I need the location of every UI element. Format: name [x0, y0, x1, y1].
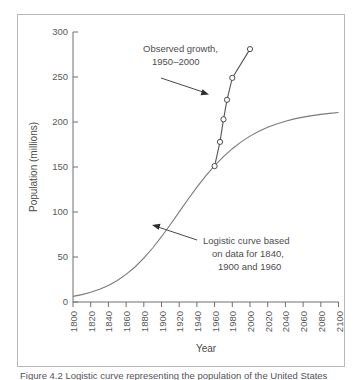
- logistic-curve-series: [73, 113, 339, 297]
- y-axis-title: Population (millions): [28, 122, 39, 212]
- observed-growth-annotation: Observed growth, 1950–2000: [143, 43, 218, 95]
- population-logistic-chart: 300 250 200 150 100 50 0: [0, 0, 362, 380]
- x-tick-label-2040: 2040: [280, 311, 291, 332]
- x-axis-tick-labels: 1800 1820 1840 1860 1880 1900 1920 1940 …: [68, 311, 345, 332]
- x-tick-label-1860: 1860: [121, 311, 132, 332]
- x-tick-label-1980: 1980: [227, 311, 238, 332]
- data-point-1970: [221, 117, 226, 122]
- y-tick-label-300: 300: [52, 26, 68, 37]
- observed-growth-annotation-line2: 1950–2000: [152, 56, 200, 67]
- observed-growth-arrow-shaft: [161, 78, 203, 92]
- observed-growth-annotation-line1: Observed growth,: [143, 43, 218, 54]
- logistic-curve-annotation-line3: 1900 and 1960: [218, 261, 281, 272]
- y-tick-label-50: 50: [57, 251, 68, 262]
- x-tick-label-1900: 1900: [157, 311, 168, 332]
- data-point-1950: [212, 164, 217, 169]
- data-point-1980: [224, 97, 229, 102]
- x-tick-label-2100: 2100: [334, 311, 345, 332]
- logistic-curve-annotation: Logistic curve based on data for 1840, 1…: [152, 224, 290, 272]
- x-tick-label-2080: 2080: [316, 311, 327, 332]
- x-tick-label-1820: 1820: [86, 311, 97, 332]
- axis-lines: [73, 32, 339, 302]
- figure-caption: Figure 4.2 Logistic curve representing t…: [20, 370, 350, 380]
- y-tick-label-250: 250: [52, 71, 68, 82]
- y-tick-label-200: 200: [52, 116, 68, 127]
- y-tick-label-100: 100: [52, 206, 68, 217]
- logistic-curve-annotation-line2: on data for 1840,: [212, 248, 284, 259]
- x-tick-label-1800: 1800: [68, 311, 79, 332]
- figure-root: 300 250 200 150 100 50 0: [0, 0, 362, 380]
- data-point-2000: [247, 47, 252, 52]
- x-tick-label-1940: 1940: [192, 311, 203, 332]
- x-tick-label-1960: 1960: [210, 311, 221, 332]
- x-axis-title: Year: [196, 343, 217, 354]
- y-tick-label-0: 0: [63, 296, 68, 307]
- x-tick-label-2020: 2020: [263, 311, 274, 332]
- y-tick-label-150: 150: [52, 161, 68, 172]
- data-point-1990: [230, 75, 235, 80]
- logistic-curve-annotation-line1: Logistic curve based: [203, 235, 290, 246]
- x-tick-label-1880: 1880: [139, 311, 150, 332]
- y-axis-tick-labels: 300 250 200 150 100 50 0: [52, 26, 68, 307]
- y-axis-ticks: [73, 32, 78, 302]
- x-tick-label-2000: 2000: [245, 311, 256, 332]
- logistic-curve-arrow-head: [152, 224, 161, 230]
- x-tick-label-2060: 2060: [298, 311, 309, 332]
- observed-growth-arrow-head: [201, 89, 209, 95]
- x-tick-label-1840: 1840: [103, 311, 114, 332]
- x-tick-label-1920: 1920: [174, 311, 185, 332]
- data-point-1960: [217, 139, 222, 144]
- x-axis-ticks: [73, 302, 339, 307]
